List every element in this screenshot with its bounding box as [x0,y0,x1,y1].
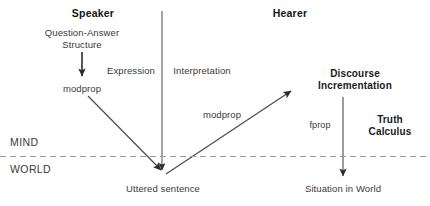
interpretation-edge-label: Interpretation [173,65,230,77]
truth-calculus-line1: Truth [377,114,403,126]
uttered-sentence-to-discourse-arrow [166,91,291,174]
situation-in-world-label: Situation in World [305,183,381,195]
diagram-canvas: Speaker Hearer Question-Answer Structure… [0,0,430,206]
mind-zone-label: MIND [10,137,38,149]
discourse-incrementation-line1: Discourse [330,68,380,80]
uttered-sentence-label: Uttered sentence [126,183,200,195]
question-answer-structure-line1: Question-Answer [45,27,119,39]
modprop-hearer-label: modprop [203,109,241,121]
modprop-speaker-label: modprop [63,83,101,95]
question-answer-structure-line2: Structure [62,39,101,51]
modprop-to-uttered-sentence-arrow [88,96,161,170]
hearer-role-label: Hearer [273,8,307,20]
speaker-role-label: Speaker [72,8,114,20]
expression-edge-label: Expression [107,65,155,77]
fprop-edge-label: fprop [309,120,330,132]
discourse-incrementation-line2: Incrementation [318,80,392,92]
truth-calculus-line2: Calculus [369,126,412,138]
world-zone-label: WORLD [10,164,51,176]
